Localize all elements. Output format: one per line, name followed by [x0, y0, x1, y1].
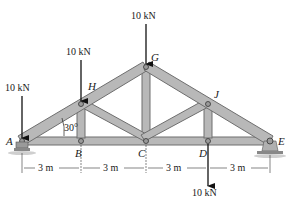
joint-G-pin	[144, 65, 149, 70]
joint-label-J: J	[214, 88, 220, 100]
joint-D-pin	[206, 139, 211, 144]
joint-label-A: A	[5, 135, 13, 147]
angle-label: 30°	[64, 122, 78, 133]
joint-label-E: E	[277, 135, 285, 147]
joint-label-D: D	[198, 147, 207, 159]
joint-label-G: G	[151, 51, 159, 63]
joint-label-C: C	[138, 147, 146, 159]
joint-J-pin	[206, 102, 211, 107]
load-label-H: 10 kN	[66, 46, 91, 57]
load-label-D: 10 kN	[192, 187, 217, 198]
dimension-AB: 3 m	[38, 162, 54, 173]
joint-H-pin	[79, 102, 84, 107]
joint-pins	[20, 65, 211, 144]
joint-C-pin	[144, 139, 149, 144]
truss-members	[18, 62, 273, 145]
member-JC	[141, 99, 210, 141]
member-CG	[142, 67, 150, 138]
load-label-A: 10 kN	[5, 82, 30, 93]
dimension-CD: 3 m	[166, 162, 182, 173]
joint-label-H: H	[87, 80, 97, 92]
dimension-BC: 3 m	[103, 162, 119, 173]
dimension-DE: 3 m	[230, 162, 246, 173]
load-label-G: 10 kN	[131, 10, 156, 21]
joint-B-pin	[79, 139, 84, 144]
truss-diagram: 30° 10 kN 10 kN 10 kN 10 kN A B C D E H …	[0, 0, 290, 211]
